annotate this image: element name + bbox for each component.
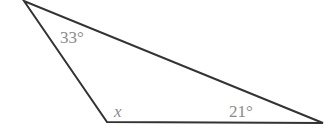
angle-label-right: 21°	[229, 102, 253, 121]
angle-label-top: 33°	[60, 28, 84, 47]
triangle-shape	[24, 1, 323, 123]
angle-label-bottom-left: x	[113, 102, 122, 121]
triangle-diagram: 33° x 21°	[0, 0, 324, 140]
